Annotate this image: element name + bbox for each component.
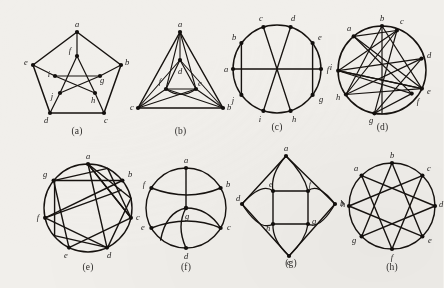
panel-g: a b c d e f g h (g): [236, 146, 346, 280]
vertex-label-e: e: [64, 250, 68, 260]
panel-h-caption: (h): [340, 262, 444, 272]
vertex-label-f: f: [143, 179, 147, 189]
vertex-label-c: c: [427, 163, 431, 173]
vertex-label-a: a: [75, 20, 79, 29]
vertex-label-b: b: [128, 169, 132, 179]
vertex-label-g: g: [100, 75, 104, 85]
vertex-label-e: e: [428, 235, 432, 245]
vertex-label-a: a: [284, 146, 288, 153]
vertex-label-d: d: [107, 250, 112, 260]
graph-c-chords: [233, 27, 321, 111]
panel-h: b c d e f g h a (h): [340, 150, 444, 280]
vertex-label-e: e: [141, 222, 145, 232]
vertex-label-e: e: [24, 57, 28, 67]
graph-h-vertices: [347, 161, 437, 251]
vertex-label-g: g: [312, 216, 316, 226]
vertex-label-a: a: [224, 64, 228, 74]
vertex-label-b: b: [380, 14, 384, 23]
vertex-label-c: c: [104, 115, 108, 124]
vertex-label-c: c: [259, 14, 263, 23]
panel-f: a b c d e f g (f): [136, 156, 236, 280]
vertex-label-g: g: [185, 211, 189, 221]
vertex-label-e: e: [427, 86, 431, 96]
vertex-label-c: c: [130, 102, 134, 112]
panel-e: a b c d e f g (e): [32, 152, 144, 280]
graph-g-drawing: a b c d e f g h: [236, 146, 346, 266]
graph-h-drawing: b c d e f g h a: [340, 150, 444, 266]
vertex-label-c: c: [400, 16, 404, 26]
panel-a-caption: (a): [18, 126, 136, 136]
vertex-label-h: h: [91, 95, 95, 105]
vertex-label-a: a: [347, 23, 351, 33]
vertex-label-b: b: [390, 150, 394, 160]
vertex-label-b: b: [226, 179, 230, 189]
graph-f-hub-spokes: [161, 168, 221, 240]
vertex-label-j: j: [231, 95, 235, 105]
vertex-label-b: b: [232, 32, 236, 42]
panel-b: a b c d e f (b): [128, 20, 233, 140]
vertex-label-a: a: [178, 20, 182, 29]
vertex-label-a: a: [184, 156, 188, 165]
vertex-label-e: e: [198, 78, 202, 88]
vertex-label-h: h: [266, 223, 270, 233]
vertex-label-d: d: [236, 193, 241, 203]
vertex-label-d: d: [178, 66, 183, 76]
panel-b-caption: (b): [128, 126, 233, 136]
graph-a-drawing: a b c d e f g h i j: [18, 20, 136, 124]
graph-g-outer-diamond: [242, 156, 335, 256]
panel-e-caption: (e): [32, 262, 144, 272]
vertex-label-g: g: [352, 235, 356, 245]
vertex-label-c: c: [227, 222, 231, 232]
panel-d-caption: (d): [325, 122, 440, 132]
panel-g-caption: (g): [236, 258, 346, 268]
graph-g-connectors: [242, 156, 335, 256]
vertex-label-g: g: [43, 169, 47, 179]
vertex-label-d: d: [439, 199, 444, 209]
panel-c-caption: (c): [222, 122, 332, 132]
vertex-label-d: d: [184, 251, 189, 261]
vertex-label-d: d: [44, 115, 49, 124]
vertex-label-f: f: [309, 179, 313, 189]
graph-d-drawing: a b c d e f g h i: [325, 14, 440, 126]
vertex-label-g: g: [319, 94, 323, 104]
panel-c: a b c d e f g h i j (c): [222, 14, 332, 142]
graph-e-drawing: a b c d e f g: [32, 152, 144, 264]
vertex-label-f: f: [69, 45, 73, 55]
panel-d: a b c d e f g h i (d): [325, 14, 440, 142]
graph-g-vertices: [240, 154, 337, 258]
panel-f-caption: (f): [136, 262, 236, 272]
vertex-label-h: h: [336, 92, 340, 102]
graph-g-inner-square: [273, 191, 308, 224]
vertex-label-f: f: [37, 212, 41, 222]
vertex-label-a: a: [86, 152, 90, 161]
panel-a: a b c d e f g h i j (a): [18, 20, 136, 140]
graph-c-drawing: a b c d e f g h i j: [222, 14, 332, 126]
vertex-label-d: d: [427, 50, 432, 60]
vertex-label-i: i: [330, 62, 333, 72]
vertex-label-f: f: [391, 252, 395, 262]
vertex-label-j: j: [50, 91, 54, 101]
graph-b-drawing: a b c d e f: [128, 20, 233, 124]
vertex-label-d: d: [291, 14, 296, 23]
vertex-label-e: e: [269, 179, 273, 189]
vertex-label-a: a: [354, 163, 358, 173]
graph-f-drawing: a b c d e f g: [136, 156, 236, 262]
vertex-label-f: f: [417, 96, 421, 106]
vertex-label-h: h: [341, 199, 345, 209]
vertex-label-e: e: [318, 32, 322, 42]
